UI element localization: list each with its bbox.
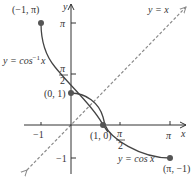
point-label-pi-neg1: (π, −1) — [163, 163, 190, 175]
point-label-1-0: (1, 0) — [90, 130, 112, 142]
y-tick-label-neg1: −1 — [56, 153, 67, 164]
x-tick-label-pi: π — [166, 130, 172, 141]
arccos-curve — [41, 23, 108, 132]
x-tick-label-pi-half-den: 2 — [118, 140, 123, 151]
identity-label: y = x — [147, 4, 169, 15]
point-neg1-pi — [38, 20, 44, 26]
x-tick-label-pi-half-num: π — [117, 128, 123, 139]
y-tick-label-pi-half-num: π — [60, 63, 66, 74]
x-axis-label: x — [180, 128, 186, 139]
y-tick-label-pi: π — [60, 18, 66, 29]
point-label-neg1-pi: (−1, π) — [12, 4, 39, 16]
point-1-0 — [100, 122, 106, 128]
x-tick-label-neg1: −1 — [33, 129, 44, 140]
inverse-cosine-graph: y x −1 π 2 π π π 2 −1 (−1, π) (0, 1) (1,… — [0, 0, 195, 177]
y-axis-label: y — [62, 1, 68, 12]
point-label-0-1: (0, 1) — [44, 88, 66, 100]
y-tick-label-pi-half-den: 2 — [60, 75, 65, 86]
arccos-label: y = cos−1x — [2, 54, 46, 66]
point-pi-neg1 — [167, 155, 173, 161]
cos-label: y = cos x — [117, 153, 155, 164]
point-0-1 — [68, 90, 74, 96]
